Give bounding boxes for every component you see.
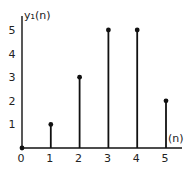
y-tick-label: 5 — [9, 24, 16, 37]
y-tick-label: 3 — [9, 71, 16, 84]
stems — [20, 28, 169, 151]
y-axis-label: y₁(n) — [24, 9, 50, 22]
stem-marker — [20, 146, 25, 151]
x-tick-label: 4 — [133, 152, 140, 165]
x-tick-label: 2 — [75, 152, 82, 165]
stem-marker — [48, 122, 53, 127]
stem-marker — [164, 98, 169, 103]
x-tick-label: 1 — [46, 152, 53, 165]
y-tick-label: 4 — [9, 48, 16, 61]
stem-marker — [135, 28, 140, 33]
x-tick-label: 5 — [162, 152, 169, 165]
stem-marker — [77, 75, 82, 80]
stem-marker — [106, 28, 111, 33]
x-axis-label: (n) — [168, 132, 184, 145]
axes — [22, 16, 182, 148]
y-tick-label: 2 — [9, 95, 16, 108]
labels: 01234512345y₁(n)(n) — [9, 9, 184, 165]
x-tick-label: 0 — [18, 152, 25, 165]
y-tick-label: 1 — [9, 118, 16, 131]
x-tick-label: 3 — [104, 152, 111, 165]
stem-plot: 01234512345y₁(n)(n) — [0, 0, 196, 175]
